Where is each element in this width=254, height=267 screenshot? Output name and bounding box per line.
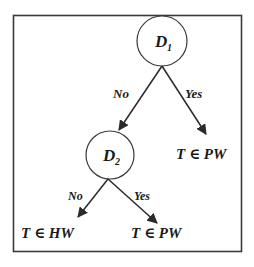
- node-d2-subscript: 2: [114, 156, 120, 167]
- node-d2-label: D: [102, 146, 115, 165]
- leaf-pw-2: T ∈ PW: [131, 225, 183, 241]
- node-d1-subscript: 1: [167, 42, 172, 53]
- edge-d2-no-label: No: [67, 189, 83, 203]
- edge-d1-yes-label: Yes: [185, 86, 202, 101]
- edge-d2-yes-label: Yes: [134, 189, 150, 203]
- node-d2: D 2: [86, 131, 134, 179]
- node-d1-label: D: [154, 32, 167, 51]
- node-d1: D 1: [137, 16, 187, 66]
- leaf-hw: T ∈ HW: [21, 225, 75, 241]
- diagram-frame: [14, 16, 242, 252]
- edge-d1-no-label: No: [112, 86, 129, 101]
- leaf-pw-1: T ∈ PW: [176, 146, 228, 162]
- decision-tree-diagram: D 1 No Yes T ∈ PW D 2 No Yes T ∈ HW T ∈ …: [0, 0, 254, 267]
